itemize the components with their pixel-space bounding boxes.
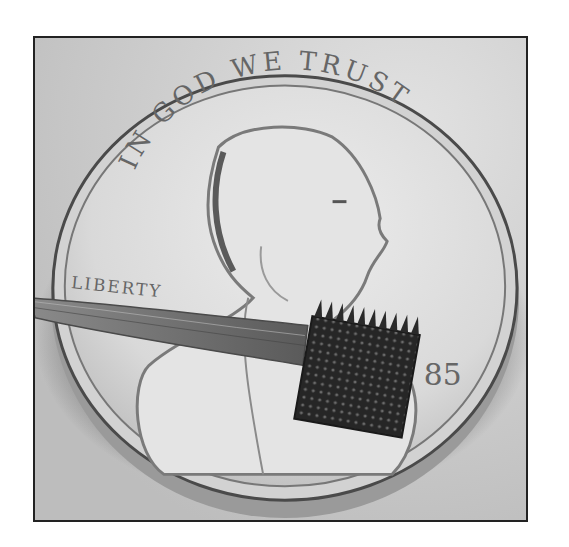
motto-label: IN GOD WE TRUST — [0, 0, 1, 1]
photo-frame: IN GOD WE TRUST LIBERTY 85 — [33, 36, 528, 522]
coin-date: 85 — [424, 357, 462, 392]
penny-photo: IN GOD WE TRUST LIBERTY 85 — [35, 38, 526, 520]
